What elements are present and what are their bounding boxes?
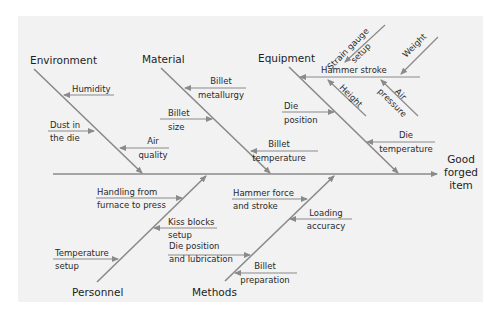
cause-die-temperature: Die <box>399 130 413 140</box>
cause-die-temperature-line2: temperature <box>379 144 432 154</box>
cause-billet-size-line2: size <box>168 122 184 132</box>
fishbone-diagram: Good forged item Environment Humidity Du… <box>0 0 499 317</box>
cause-die-position-and-lubrication-line2: and lubrication <box>169 254 233 264</box>
svg-text:forged: forged <box>444 166 478 178</box>
cause-air-quality: Air <box>147 136 159 146</box>
cause-billet-temperature: Billet <box>268 139 290 149</box>
category-material: Material <box>142 53 185 65</box>
cause-kiss-blocks-setup: Kiss blocks <box>168 217 215 227</box>
cause-hammer-force-and-stroke-line2: and stroke <box>233 201 278 211</box>
category-personnel: Personnel <box>72 286 123 298</box>
cause-air-quality-line2: quality <box>138 150 167 160</box>
cause-billet-preparation: Billet <box>254 261 276 271</box>
cause-kiss-blocks-setup-line2: setup <box>168 230 192 240</box>
effect-label: Good forged item <box>444 153 478 191</box>
svg-text:Good: Good <box>447 153 475 165</box>
cause-billet-preparation-line2: preparation <box>240 275 290 285</box>
svg-text:item: item <box>449 179 473 191</box>
cause-height: Height <box>338 82 365 109</box>
cause-billet-metallurgy: Billet <box>210 76 232 86</box>
cause-dust-in-the-die-line2: the die <box>50 133 80 143</box>
cause-humidity: Humidity <box>72 84 111 94</box>
cause-die-position-and-lubrication: Die position <box>169 241 220 251</box>
cause-loading-accuracy-line2: accuracy <box>307 221 345 231</box>
cause-billet-temperature-line2: temperature <box>252 153 305 163</box>
cause-dust-in-the-die: Dust in <box>50 120 80 130</box>
cause-billet-size: Billet <box>168 108 190 118</box>
cause-handling-from-furnace: Handling from <box>97 187 157 197</box>
svg-text:Height: Height <box>338 82 365 109</box>
cause-hammer-force-and-stroke: Hammer force <box>233 188 294 198</box>
cause-loading-accuracy: Loading <box>309 208 343 218</box>
cause-handling-from-furnace-line2: furnace to press <box>97 200 167 210</box>
category-equipment: Equipment <box>258 52 315 64</box>
cause-temperature-setup: Temperature <box>54 248 109 258</box>
category-environment: Environment <box>30 54 97 66</box>
cause-weight: Weight <box>400 31 428 59</box>
cause-air-pressure: Air pressure <box>376 78 418 120</box>
svg-text:Weight: Weight <box>400 31 428 59</box>
cause-die-position-line2: position <box>284 115 318 125</box>
category-methods: Methods <box>192 286 237 298</box>
cause-billet-metallurgy-line2: metallurgy <box>198 90 244 100</box>
cause-temperature-setup-line2: setup <box>55 261 79 271</box>
cause-die-position: Die <box>284 101 298 111</box>
